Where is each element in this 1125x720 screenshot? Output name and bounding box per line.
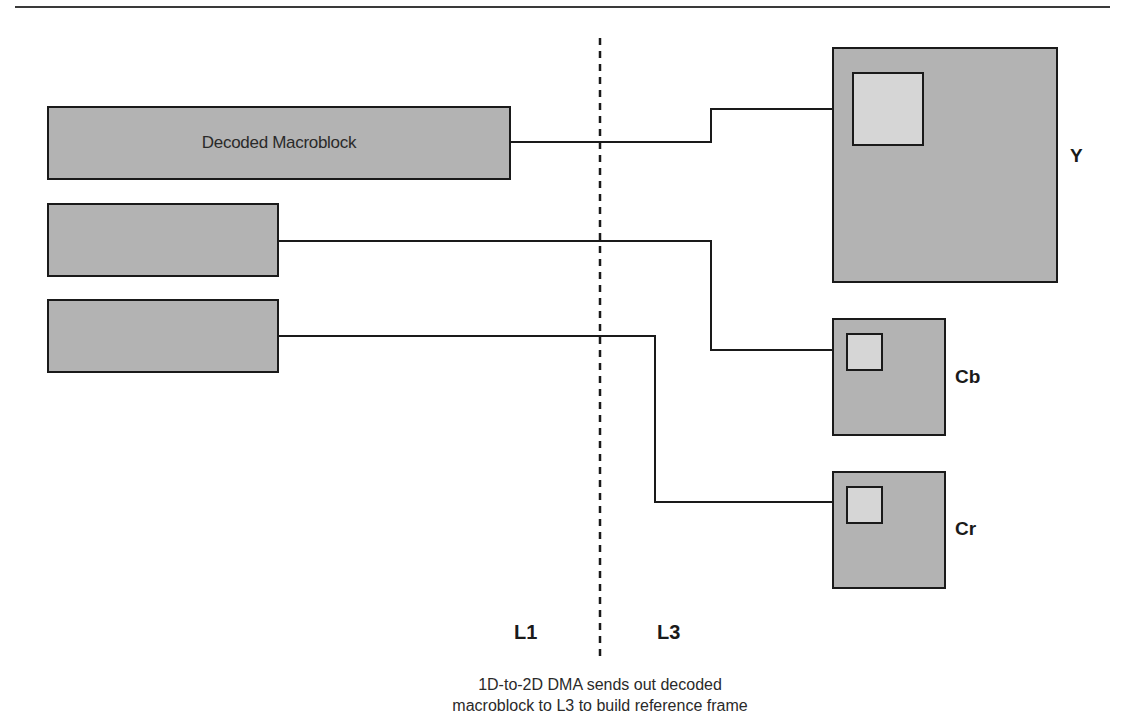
cb-frame-label: Cb bbox=[955, 366, 980, 388]
y-macroblock-slot bbox=[852, 72, 924, 146]
cr-connector bbox=[278, 336, 845, 502]
caption-line-1: 1D-to-2D DMA sends out decoded bbox=[350, 674, 850, 695]
caption-line-2: macroblock to L3 to build reference fram… bbox=[350, 695, 850, 716]
decoded-macroblock-label: Decoded Macroblock bbox=[49, 133, 509, 153]
y-frame-label: Y bbox=[1070, 145, 1083, 167]
decoded-macroblock-block: Decoded Macroblock bbox=[47, 106, 511, 180]
l3-label: L3 bbox=[657, 621, 680, 644]
y-connector bbox=[510, 109, 851, 142]
cb-macroblock-slot bbox=[846, 333, 883, 371]
cb-connector bbox=[278, 241, 845, 350]
cr-frame-label: Cr bbox=[955, 518, 976, 540]
cr-macroblock-slot bbox=[846, 486, 883, 524]
l1-label: L1 bbox=[514, 621, 537, 644]
cb-source-block bbox=[47, 203, 279, 277]
cr-source-block bbox=[47, 299, 279, 373]
